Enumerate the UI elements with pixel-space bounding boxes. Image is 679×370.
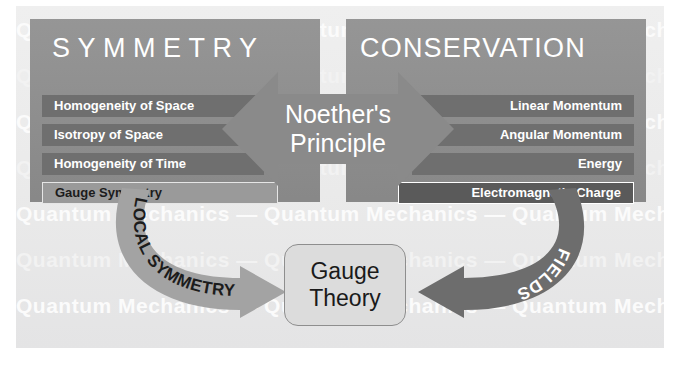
noethers-principle-double-arrow: Noether's Principle	[222, 66, 454, 192]
fields-curved-arrow: FIELDS	[408, 186, 623, 318]
conservation-panel-title: CONSERVATION	[360, 31, 586, 65]
diagram-canvas: Quantum Mechanics — Quantum Mechanics — …	[0, 0, 679, 370]
gauge-theory-line2: Theory	[309, 285, 381, 312]
double-arrow-shape	[222, 72, 454, 186]
symmetry-panel-title: SYMMETRY	[52, 31, 265, 65]
local-symmetry-label: LOCAL SYMMETRY	[129, 196, 236, 300]
gauge-theory-label-group: Gauge Theory	[309, 258, 381, 312]
gauge-theory-line1: Gauge	[309, 258, 381, 285]
gauge-theory-box[interactable]: Gauge Theory	[284, 244, 406, 326]
